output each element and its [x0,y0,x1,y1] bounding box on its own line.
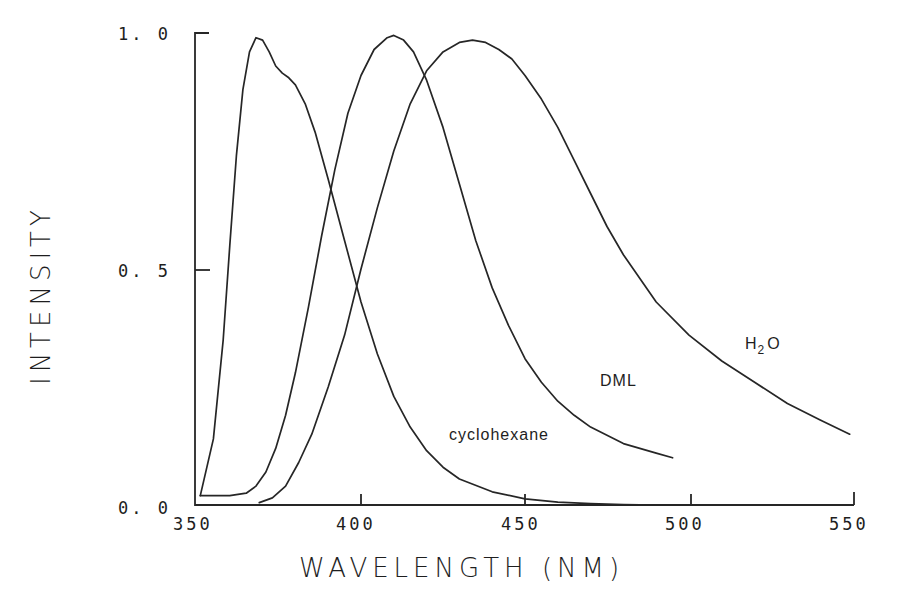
y-tick-label-0.0: 0. 0 [118,498,171,518]
x-tick-label-350: 350 [173,514,213,534]
x-axis-title: WAVELENGTH (NM) [299,553,624,583]
label-h2o-h: H [745,335,758,352]
fluorescence-chart: 1. 0 0. 5 0. 0 350 400 450 500 550 WAVEL… [0,0,899,600]
curve-cyclohexane [200,38,689,505]
curve-dml [200,35,672,495]
y-tick-label-0.5: 0. 5 [118,261,171,281]
y-tick-label-1.0: 1. 0 [118,24,171,44]
label-cyclohexane: cyclohexane [449,426,549,443]
x-tick-labels: 350 400 450 500 550 [173,514,869,534]
curve-h2o [259,40,849,503]
label-h2o-sub: 2 [758,343,766,357]
label-dml: DML [600,372,637,389]
x-tick-label-400: 400 [336,514,376,534]
x-tick-label-450: 450 [501,514,541,534]
label-h2o-o: O [767,335,780,352]
x-tick-label-500: 500 [665,514,705,534]
label-h2o: H2O [745,335,781,357]
y-axis-title: INTENSITY [26,205,56,385]
x-tick-label-550: 550 [829,514,869,534]
series-labels: cyclohexane DML H2O [449,335,781,443]
y-tick-labels: 1. 0 0. 5 0. 0 [118,24,171,518]
